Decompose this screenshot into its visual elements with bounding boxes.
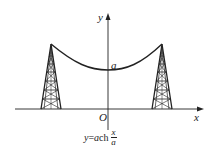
right-tower-icon <box>152 44 172 109</box>
formula-denominator: a <box>111 138 116 147</box>
vertex-label: a <box>111 60 117 71</box>
formula-func: ch <box>99 132 108 143</box>
y-axis-label: y <box>98 12 103 23</box>
left-tower-icon <box>41 44 61 109</box>
y-axis-arrow-icon <box>106 13 111 20</box>
catenary-curve <box>51 44 162 70</box>
formula-fraction: x a <box>111 128 117 147</box>
x-axis-label: x <box>194 112 199 123</box>
catenary-formula: y = a ch x a <box>84 128 117 147</box>
origin-label: O <box>99 112 107 123</box>
